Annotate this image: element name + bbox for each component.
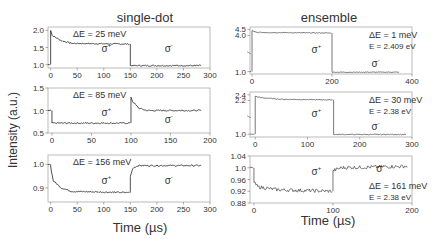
panels: 0501001502002503001.01.52.0ΔE = 25 meVσ+… (33, 25, 427, 215)
x-tick-label: 300 (203, 71, 217, 80)
data-trace (252, 31, 331, 34)
x-tick-label: 250 (177, 71, 191, 80)
sigma-plus-label: σ+ (101, 42, 111, 54)
x-tick-label: 50 (87, 136, 96, 145)
sigma-minus-label: σ- (165, 174, 173, 186)
data-trace (333, 165, 407, 171)
x-axis-label-right: Time (µs) (301, 213, 356, 228)
sigma-plus-label: σ+ (101, 174, 111, 186)
x-tick-label: 0 (250, 77, 255, 86)
x-tick-label: 300 (405, 140, 419, 149)
sigma-plus-label: σ+ (312, 165, 322, 177)
y-tick-label: 1.0 (235, 68, 247, 77)
x-tick-label: 100 (326, 206, 340, 215)
sigma-plus-label: σ+ (101, 106, 111, 118)
x-tick-label: 200 (353, 140, 367, 149)
left-column-title: single-dot (117, 10, 174, 25)
panel-6: 01002000.880.920.961.01.04ΔE = 161 meVE … (230, 152, 427, 215)
sigma-plus-label: σ+ (312, 107, 322, 119)
y-axis-label: Intensity (a.u.) (6, 92, 20, 168)
y-tick-label: 1.04 (230, 152, 246, 161)
data-trace (254, 182, 332, 193)
y-tick-label: 4.5 (235, 25, 247, 34)
sigma-minus-label: σ- (372, 57, 380, 69)
detection-energy-annotation: E = 2.38 eV (369, 193, 412, 202)
detection-energy-annotation: E = 2.38 eV (369, 107, 412, 116)
y-tick-label: 1.0 (235, 130, 247, 139)
panel-5: 01002003001.02.22.4ΔE = 30 meVE = 2.38 e… (235, 91, 422, 149)
sigma-minus-label: σ- (372, 120, 380, 132)
x-tick-label: 100 (97, 71, 111, 80)
data-trace (255, 96, 333, 100)
x-tick-label: 200 (405, 206, 419, 215)
x-tick-label: 0 (253, 140, 258, 149)
x-tick-label: 100 (97, 205, 111, 214)
data-trace (51, 167, 130, 193)
y-tick-label: 1.5 (33, 44, 45, 53)
x-tick-label: 0 (48, 71, 53, 80)
x-tick-label: 250 (177, 205, 191, 214)
figure-canvas: single-dot ensemble Intensity (a.u.) Tim… (0, 0, 435, 239)
y-tick-label: 0.96 (230, 176, 246, 185)
x-axis-label-left: Time (µs) (113, 220, 168, 235)
delta-e-annotation: ΔE = 156 meV (73, 157, 131, 167)
panel-1: 0501001502002503001.01.52.0ΔE = 25 meVσ+… (33, 26, 217, 80)
sigma-plus-label: σ+ (312, 43, 322, 55)
data-trace (130, 65, 201, 66)
sigma-minus-label: σ- (165, 113, 173, 125)
x-tick-label: 300 (203, 205, 217, 214)
x-tick-label: 0 (50, 136, 55, 145)
x-tick-label: 200 (325, 77, 339, 86)
y-tick-label: 0.88 (230, 199, 246, 208)
x-tick-label: 150 (124, 205, 138, 214)
x-tick-label: 50 (73, 71, 82, 80)
y-tick-label: 0.5 (33, 129, 45, 138)
data-trace (52, 122, 130, 123)
detection-energy-annotation: E = 2.409 eV (369, 42, 416, 51)
data-trace (250, 167, 253, 168)
x-tick-label: 150 (164, 136, 178, 145)
sigma-minus-label: σ- (376, 162, 384, 174)
right-column-title: ensemble (301, 10, 357, 25)
panel-2: 0501001502000.51.01.5ΔE = 85 meVσ+σ- (33, 84, 217, 145)
x-tick-label: 0 (48, 205, 53, 214)
data-trace (332, 72, 399, 73)
x-tick-label: 100 (301, 140, 315, 149)
delta-e-annotation: ΔE = 30 meV (369, 95, 422, 105)
data-trace (334, 134, 406, 135)
x-tick-label: 200 (150, 205, 164, 214)
panel-3: 0501001502002503000.91.0ΔE = 156 meVσ+σ- (33, 155, 217, 214)
y-tick-label: 0.92 (230, 187, 246, 196)
x-tick-label: 200 (203, 136, 217, 145)
sigma-minus-label: σ- (165, 42, 173, 54)
y-tick-label: 2.0 (33, 26, 45, 35)
x-tick-label: 100 (124, 136, 138, 145)
x-tick-label: 0 (252, 206, 257, 215)
y-tick-label: 0.9 (33, 184, 45, 193)
panel-4: 02004001.04.04.5ΔE = 1 meVE = 2.409 eVσ+… (235, 25, 419, 86)
y-tick-label: 2.4 (235, 91, 247, 100)
delta-e-annotation: ΔE = 1 meV (369, 30, 417, 40)
x-tick-label: 200 (150, 71, 164, 80)
x-tick-label: 400 (405, 77, 419, 86)
delta-e-annotation: ΔE = 25 meV (73, 29, 126, 39)
y-tick-label: 1.5 (33, 84, 45, 93)
y-tick-label: 1.0 (33, 61, 45, 70)
delta-e-annotation: ΔE = 85 meV (73, 90, 126, 100)
data-trace (48, 164, 50, 165)
y-tick-label: 1.0 (235, 164, 247, 173)
y-tick-label: 1.0 (33, 160, 45, 169)
x-tick-label: 150 (124, 71, 138, 80)
data-trace (131, 97, 201, 111)
delta-e-annotation: ΔE = 161 meV (369, 181, 427, 191)
x-tick-label: 50 (73, 205, 82, 214)
y-tick-label: 1.0 (33, 107, 45, 116)
